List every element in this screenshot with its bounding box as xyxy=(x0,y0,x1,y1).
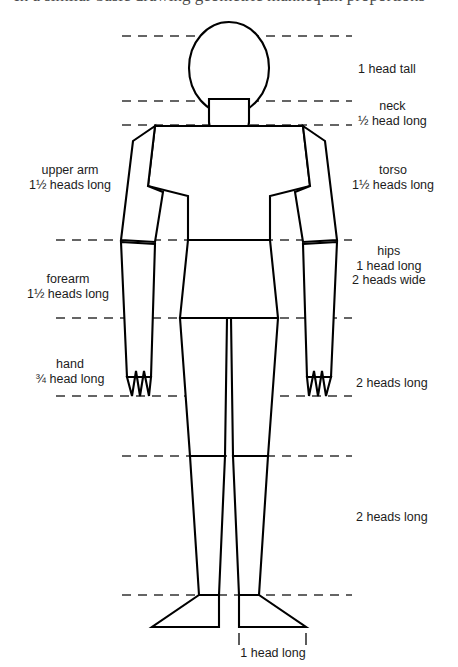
label-hand: hand ¾ head long xyxy=(20,357,120,386)
label-upper-arm-line-1: upper arm xyxy=(18,163,122,178)
label-neck: neck ½ head long xyxy=(358,99,427,128)
hips-shape xyxy=(180,240,278,318)
label-forearm: forearm 1½ heads long xyxy=(16,272,120,301)
label-foot-length: 1 head long xyxy=(213,646,333,661)
label-forearm-line-2: 1½ heads long xyxy=(16,287,120,302)
label-head-height-line-1: 1 head tall xyxy=(358,62,416,77)
label-lower-leg-line-1: 2 heads long xyxy=(356,510,428,525)
left-foot-shape xyxy=(152,595,219,627)
left-lower-leg-shape xyxy=(190,456,225,595)
right-thigh-shape xyxy=(231,318,278,456)
label-forearm-line-1: forearm xyxy=(16,272,120,287)
right-foot-shape xyxy=(239,595,306,627)
label-hips-line-2: 1 head long xyxy=(352,259,426,274)
label-neck-line-1: neck xyxy=(358,99,427,114)
left-forearm-shape xyxy=(121,242,155,377)
label-lower-leg: 2 heads long xyxy=(356,510,428,525)
foot-width-ticks xyxy=(239,633,306,645)
label-hand-line-1: hand xyxy=(20,357,120,372)
body-outline xyxy=(121,22,337,627)
label-foot-length-line-1: 1 head long xyxy=(213,646,333,661)
left-thigh-shape xyxy=(180,318,227,456)
label-hips-line-1: hips xyxy=(352,244,426,259)
label-upper-arm: upper arm 1½ heads long xyxy=(18,163,122,192)
label-torso-line-1: torso xyxy=(352,163,434,178)
label-hand-line-2: ¾ head long xyxy=(20,372,120,387)
label-torso-line-2: 1½ heads long xyxy=(352,178,434,193)
label-upper-leg: 2 heads long xyxy=(356,376,428,391)
label-torso: torso 1½ heads long xyxy=(352,163,434,192)
shoulder-torso-shape xyxy=(148,126,310,240)
right-forearm-shape xyxy=(303,242,337,377)
label-upper-leg-line-1: 2 heads long xyxy=(356,376,428,391)
proportion-diagram-page: In a similar basic drawing geometric man… xyxy=(0,0,458,667)
label-hips: hips 1 head long 2 heads wide xyxy=(352,244,426,288)
label-head-height: 1 head tall xyxy=(358,62,416,77)
label-neck-line-2: ½ head long xyxy=(358,114,427,129)
label-upper-arm-line-2: 1½ heads long xyxy=(18,178,122,193)
right-lower-leg-shape xyxy=(233,456,268,595)
label-hips-line-3: 2 heads wide xyxy=(352,273,426,288)
